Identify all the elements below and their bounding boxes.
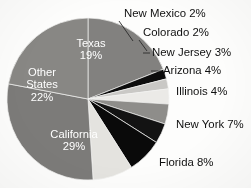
pie-label-line: 19% bbox=[80, 49, 102, 61]
pie-label-new-york: New York 7% bbox=[176, 118, 244, 130]
pie-label-new-mexico: New Mexico 2% bbox=[124, 7, 206, 19]
pie-label-line: 22% bbox=[31, 91, 53, 103]
pie-label-line: Other bbox=[28, 66, 56, 78]
pie-label-line: Illinois 4% bbox=[176, 85, 227, 97]
pie-chart-svg: Texas19%New Mexico 2%Colorado 2%New Jers… bbox=[0, 0, 251, 188]
pie-label-line: California bbox=[50, 128, 98, 140]
pie-label-line: New Jersey 3% bbox=[152, 46, 231, 58]
pie-label-texas: Texas19% bbox=[76, 37, 106, 61]
pie-chart-figure: Texas19%New Mexico 2%Colorado 2%New Jers… bbox=[0, 0, 251, 188]
pie-label-new-jersey: New Jersey 3% bbox=[152, 46, 231, 58]
pie-label-line: Florida 8% bbox=[159, 156, 213, 168]
pie-label-line: New Mexico 2% bbox=[124, 7, 206, 19]
pie-label-colorado: Colorado 2% bbox=[143, 26, 209, 38]
pie-label-line: 29% bbox=[63, 140, 85, 152]
pie-label-florida: Florida 8% bbox=[159, 156, 213, 168]
pie-label-line: Colorado 2% bbox=[143, 26, 209, 38]
pie-label-illinois: Illinois 4% bbox=[176, 85, 227, 97]
pie-label-line: States bbox=[26, 78, 58, 90]
pie-label-line: New York 7% bbox=[176, 118, 244, 130]
pie-label-arizona: Arizona 4% bbox=[163, 64, 221, 76]
pie-label-line: Arizona 4% bbox=[163, 64, 221, 76]
pie-label-line: Texas bbox=[76, 37, 106, 49]
